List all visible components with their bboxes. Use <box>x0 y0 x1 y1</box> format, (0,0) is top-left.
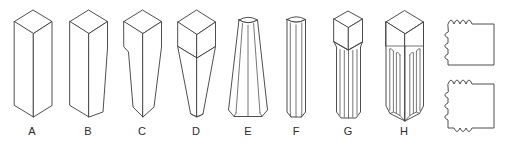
shape-d-cube-top-tapered-point <box>178 10 216 117</box>
shape-a-square-prism-straight <box>15 10 53 117</box>
cross-section-bottom <box>445 80 494 132</box>
shape-e-fluted-tapered-column <box>229 17 268 116</box>
shapes-drawing <box>0 0 509 146</box>
cross-section-top <box>445 20 494 65</box>
shape-c-square-prism-both-sides-tapered <box>124 10 162 117</box>
shape-b-square-prism-one-side-tapered <box>70 10 108 117</box>
shape-h-deep-fluted-square-column <box>386 11 424 122</box>
figure-root: A B C D E F G H <box>0 0 509 146</box>
shape-f-fluted-straight-column <box>287 17 306 117</box>
shape-g-square-top-fluted-shaft <box>334 11 363 118</box>
